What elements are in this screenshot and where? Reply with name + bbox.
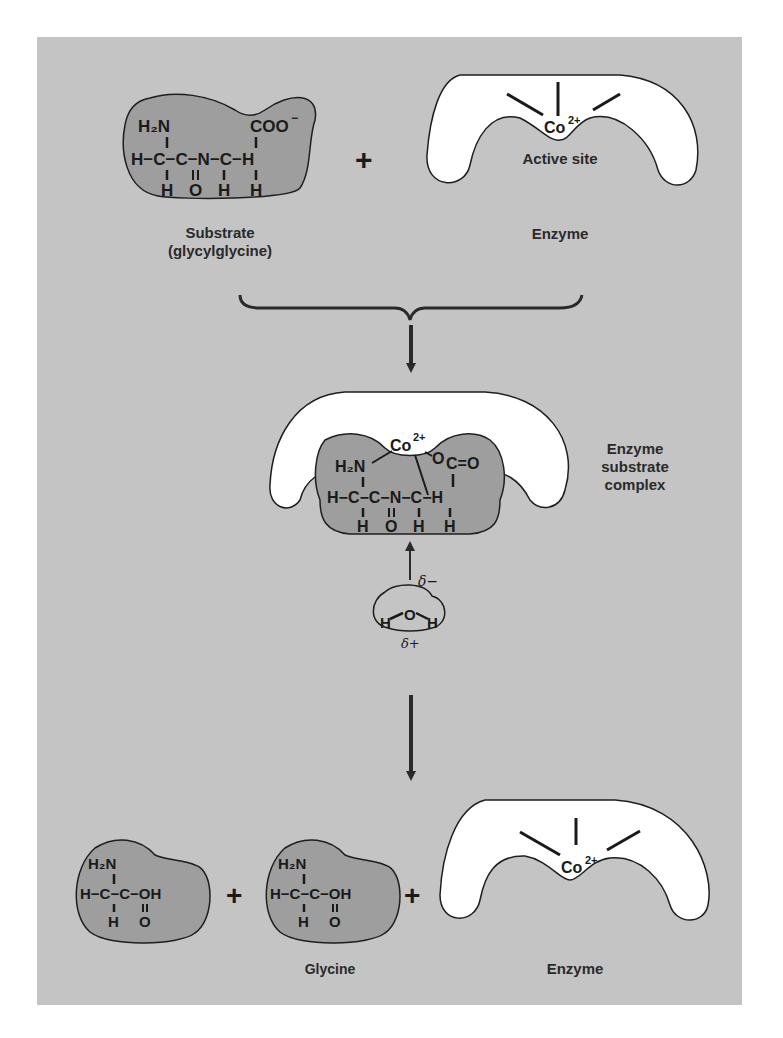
enzyme-product: Co 2+ bbox=[440, 800, 709, 920]
svg-text:C=O: C=O bbox=[446, 455, 479, 472]
svg-text:H−C−C−OH: H−C−C−OH bbox=[270, 885, 351, 902]
svg-text:O: O bbox=[329, 913, 341, 930]
svg-text:H₂N: H₂N bbox=[278, 855, 306, 872]
hydrolysis-diagram: H₂N COO − H−C−C−N−C−H H O H H + Co 2+ Co… bbox=[0, 0, 783, 1038]
substrate-label: Substrate (glycylglycine) bbox=[150, 224, 290, 260]
svg-text:O: O bbox=[189, 181, 202, 200]
svg-text:H: H bbox=[380, 614, 391, 631]
glycine-product-2: H₂N H−C−C−OH H O bbox=[266, 840, 400, 943]
svg-text:O: O bbox=[404, 606, 416, 623]
substrate-molecule: H₂N COO − H−C−C−N−C−H H O H H bbox=[123, 94, 315, 200]
substrate-h2n: H₂N bbox=[138, 117, 170, 136]
svg-text:H: H bbox=[250, 181, 262, 200]
complex-backbone: H−C−C−N−C−H bbox=[327, 489, 443, 506]
glycine-product-1: H₂N H−C−C−OH H O bbox=[76, 840, 210, 943]
plus-sign: + bbox=[355, 143, 373, 176]
water-molecule: O H H δ− δ+ bbox=[373, 573, 444, 651]
svg-text:H: H bbox=[357, 518, 369, 535]
complex-cofactor: Co bbox=[390, 437, 412, 454]
svg-text:O: O bbox=[432, 450, 444, 467]
substrate-coo-charge: − bbox=[291, 111, 298, 125]
enzyme-top: Co 2+ bbox=[427, 75, 698, 185]
cofactor-co: Co bbox=[544, 119, 566, 136]
svg-text:H: H bbox=[427, 614, 438, 631]
product-cofactor: Co bbox=[561, 859, 583, 876]
active-site-label: Active site bbox=[510, 150, 610, 168]
combine-brace bbox=[240, 295, 582, 320]
svg-text:H: H bbox=[108, 913, 119, 930]
svg-text:H: H bbox=[413, 518, 425, 535]
svg-text:H: H bbox=[161, 181, 173, 200]
enzyme-label-top: Enzyme bbox=[510, 225, 610, 243]
svg-text:H: H bbox=[218, 181, 230, 200]
svg-text:H: H bbox=[444, 518, 456, 535]
svg-text:O: O bbox=[139, 913, 151, 930]
svg-text:O: O bbox=[385, 518, 397, 535]
delta-minus: δ− bbox=[418, 573, 438, 589]
plus-sign-2: + bbox=[404, 880, 420, 911]
plus-sign-1: + bbox=[226, 880, 242, 911]
svg-text:H₂N: H₂N bbox=[335, 458, 365, 475]
complex-cofactor-charge: 2+ bbox=[413, 431, 426, 443]
enzyme-label-bottom: Enzyme bbox=[525, 960, 625, 978]
product-cofactor-charge: 2+ bbox=[585, 854, 598, 866]
cofactor-charge: 2+ bbox=[568, 114, 581, 126]
enzyme-substrate-complex: Co 2+ H₂N O C=O H−C−C−N−C−H H O H H bbox=[270, 392, 569, 535]
substrate-coo: COO bbox=[250, 117, 289, 136]
glycine-label: Glycine bbox=[280, 960, 380, 978]
svg-text:H: H bbox=[298, 913, 309, 930]
svg-text:H−C−C−OH: H−C−C−OH bbox=[80, 885, 161, 902]
delta-plus: δ+ bbox=[401, 636, 420, 651]
svg-text:H₂N: H₂N bbox=[88, 855, 116, 872]
substrate-backbone: H−C−C−N−C−H bbox=[131, 150, 254, 169]
complex-label: Enzyme substrate complex bbox=[580, 440, 690, 494]
